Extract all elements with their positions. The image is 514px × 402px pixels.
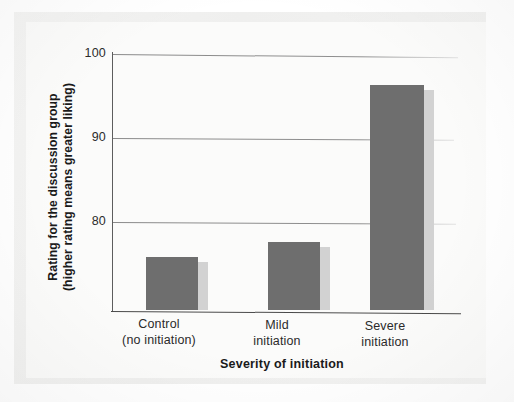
y-axis-title: Rating for the discussion group (higher … [46, 82, 76, 292]
x-category-label-control-line2: (no initiation) [98, 332, 220, 348]
x-category-label-severe-line1: Severe [365, 319, 406, 333]
bar-severe[interactable] [370, 85, 424, 310]
y-axis-title-line2: (higher rating means greater liking) [61, 82, 76, 292]
bar-mild[interactable] [268, 242, 320, 310]
y-tick-label-100: 100 [66, 46, 106, 60]
plot-area [112, 54, 452, 310]
x-category-label-mild-line2: initiation [222, 333, 332, 349]
x-category-label-control-line1: Control [138, 317, 179, 331]
x-category-label-severe-line2: initiation [330, 334, 440, 350]
x-category-label-mild-line1: Mild [265, 318, 289, 332]
y-axis-title-line1: Rating for the discussion group [46, 93, 60, 280]
x-category-label-control: Control (no initiation) [98, 316, 220, 348]
bar-control[interactable] [146, 257, 198, 310]
x-category-label-severe: Severe initiation [330, 318, 440, 350]
figure-root: 100 90 80 Control (no initiation) Mild i… [0, 0, 514, 402]
x-axis-title: Severity of initiation [112, 357, 452, 371]
x-category-label-mild: Mild initiation [222, 317, 332, 349]
